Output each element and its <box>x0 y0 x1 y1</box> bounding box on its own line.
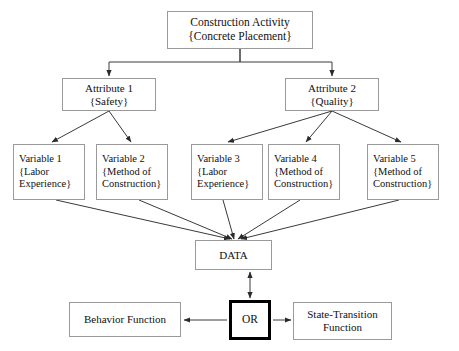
variable-1-box[interactable]: Variable 1 {Labor Experience} <box>13 144 85 200</box>
edge-variable5-to-data <box>241 200 399 239</box>
variable-5-subtitle-b: Construction} <box>373 178 432 190</box>
attribute-2-box[interactable]: Attribute 2 {Quality} <box>285 78 379 111</box>
edge-attribute2-to-variable3 <box>228 111 332 142</box>
edge-variable2-to-data <box>139 200 232 239</box>
variable-4-title: Variable 4 <box>274 153 317 165</box>
variable-5-title: Variable 5 <box>373 153 416 165</box>
variable-3-subtitle-b: Experience} <box>197 178 249 190</box>
variable-3-subtitle-a: {Labor <box>197 166 227 178</box>
edge-attribute1-to-variable1 <box>52 111 109 142</box>
variable-5-subtitle-a: {Method of <box>373 166 422 178</box>
data-box[interactable]: DATA <box>195 240 272 270</box>
attribute-2-subtitle: {Quality} <box>310 95 354 108</box>
attribute-1-subtitle: {Safety} <box>90 95 129 108</box>
variable-2-box[interactable]: Variable 2 {Method of Construction} <box>96 144 168 200</box>
edge-attribute1-to-variable2 <box>109 111 131 142</box>
state-transition-label-b: Function <box>323 321 362 334</box>
variable-5-box[interactable]: Variable 5 {Method of Construction} <box>367 144 439 200</box>
edge-attribute2-to-variable4 <box>306 111 332 142</box>
attribute-1-title: Attribute 1 <box>85 82 133 95</box>
variable-3-box[interactable]: Variable 3 {Labor Experience} <box>191 144 263 200</box>
diagram-canvas: Construction Activity {Concrete Placemen… <box>0 0 459 351</box>
construction-activity-title: Construction Activity <box>190 16 289 30</box>
attribute-2-title: Attribute 2 <box>308 82 356 95</box>
data-label: DATA <box>219 249 247 262</box>
edge-variable1-to-data <box>56 200 230 239</box>
variable-2-subtitle-b: Construction} <box>102 178 161 190</box>
variable-2-subtitle-a: {Method of <box>102 166 151 178</box>
construction-activity-subtitle: {Concrete Placement} <box>188 30 291 44</box>
edge-root-to-attribute1 <box>109 49 240 76</box>
or-label: OR <box>242 313 258 327</box>
attribute-1-box[interactable]: Attribute 1 {Safety} <box>62 78 156 111</box>
or-operator-box[interactable]: OR <box>229 300 271 340</box>
behavior-function-box[interactable]: Behavior Function <box>69 302 181 337</box>
edge-variable3-to-data <box>223 200 234 239</box>
edge-root-to-attribute2 <box>240 49 332 76</box>
variable-4-subtitle-b: Construction} <box>274 178 333 190</box>
behavior-function-label: Behavior Function <box>84 313 166 326</box>
variable-4-box[interactable]: Variable 4 {Method of Construction} <box>268 144 340 200</box>
variable-1-title: Variable 1 <box>19 153 62 165</box>
construction-activity-box[interactable]: Construction Activity {Concrete Placemen… <box>167 11 313 49</box>
variable-4-subtitle-a: {Method of <box>274 166 323 178</box>
edge-attribute2-to-variable5 <box>332 111 401 142</box>
edge-variable4-to-data <box>238 200 300 239</box>
variable-1-subtitle-b: Experience} <box>19 178 71 190</box>
variable-3-title: Variable 3 <box>197 153 240 165</box>
state-transition-label-a: State-Transition <box>307 308 378 321</box>
variable-2-title: Variable 2 <box>102 153 145 165</box>
state-transition-function-box[interactable]: State-Transition Function <box>293 302 392 340</box>
variable-1-subtitle-a: {Labor <box>19 166 49 178</box>
